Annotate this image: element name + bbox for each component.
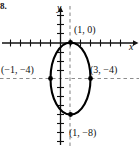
x-axis-label: x xyxy=(129,42,133,52)
x-axis-arrowhead xyxy=(133,40,139,46)
point-label-top: (1, 0) xyxy=(74,25,96,35)
point-vertex-bottom xyxy=(68,112,73,117)
point-label-bottom: (1, −8) xyxy=(69,128,96,138)
y-axis-label: y xyxy=(57,3,61,13)
point-label-left: (−1, −4) xyxy=(1,65,34,75)
point-co-vertex-left xyxy=(48,76,53,81)
point-label-right: (3, −4) xyxy=(90,65,117,75)
point-co-vertex-right xyxy=(88,76,93,81)
ellipse-graph-figure: 8. xyxy=(0,0,139,147)
point-vertex-top xyxy=(68,40,73,45)
